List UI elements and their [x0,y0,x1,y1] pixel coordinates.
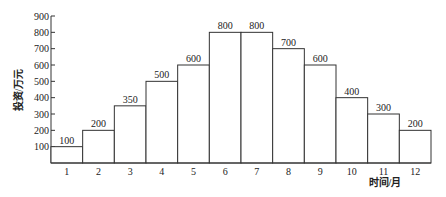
bar-value-label: 200 [91,118,106,129]
bar-value-label: 800 [218,20,233,31]
x-tick-label: 10 [347,166,357,177]
x-tick-label: 12 [410,166,420,177]
x-tick-label: 11 [379,166,389,177]
y-tick-label: 400 [34,92,49,103]
bar [178,65,210,163]
y-tick-label: 900 [34,11,49,22]
bar [368,114,400,163]
bar [83,130,115,163]
y-tick-label: 100 [34,141,49,152]
y-tick-label: 600 [34,60,49,71]
x-tick-label: 9 [318,166,323,177]
x-tick-label: 8 [286,166,291,177]
x-tick-label: 1 [64,166,69,177]
bar-value-label: 700 [281,37,296,48]
bars: 100200350500600800800700600400300200 [51,20,431,163]
bar-value-label: 300 [376,102,391,113]
bar [146,81,178,163]
bar [304,65,336,163]
bar-value-label: 800 [249,20,264,31]
bar-value-label: 200 [408,118,423,129]
bar-value-label: 350 [123,94,138,105]
investment-bar-chart: 100200300400500600700800900 100200350500… [0,0,446,197]
bar [399,130,431,163]
bar-value-label: 100 [59,135,74,146]
x-tick-label: 7 [254,166,259,177]
x-axis: 123456789101112 [51,163,431,177]
bar [336,98,368,163]
x-tick-label: 3 [128,166,133,177]
bar-value-label: 400 [344,86,359,97]
bar [51,147,83,163]
bar [241,32,273,163]
y-tick-label: 200 [34,125,49,136]
y-tick-label: 300 [34,109,49,120]
x-tick-label: 6 [223,166,228,177]
bar [209,32,241,163]
y-tick-label: 800 [34,27,49,38]
x-tick-label: 4 [159,166,164,177]
bar-value-label: 600 [313,53,328,64]
bar-value-label: 500 [154,69,169,80]
bar [114,106,146,163]
x-tick-label: 5 [191,166,196,177]
x-axis-title: 时间/月 [369,176,402,188]
y-axis: 100200300400500600700800900 [34,11,55,164]
x-tick-label: 2 [96,166,101,177]
bar [273,49,305,163]
y-tick-label: 500 [34,76,49,87]
bar-value-label: 600 [186,53,201,64]
y-axis-title: 投资/万元 [12,69,24,112]
y-tick-label: 700 [34,43,49,54]
